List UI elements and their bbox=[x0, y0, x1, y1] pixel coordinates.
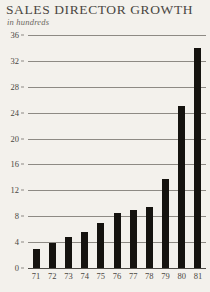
y-axis-tick-label: 32 bbox=[0, 56, 19, 66]
x-axis-tick-label: 81 bbox=[190, 271, 206, 281]
y-axis-tick-mark bbox=[21, 60, 24, 61]
y-axis-tick-mark bbox=[21, 242, 24, 243]
bar bbox=[33, 249, 40, 268]
x-axis-tick-label: 75 bbox=[93, 271, 109, 281]
y-axis-tick-label: 4 bbox=[0, 237, 19, 247]
x-axis-tick-label: 80 bbox=[174, 271, 190, 281]
x-axis-tick-label: 78 bbox=[141, 271, 157, 281]
y-axis-tick-mark bbox=[21, 164, 24, 165]
bar bbox=[81, 232, 88, 268]
chart-subtitle: in hundreds bbox=[7, 17, 49, 27]
bars-layer bbox=[28, 35, 206, 268]
y-axis-tick-mark bbox=[21, 190, 24, 191]
x-axis-tick-label: 73 bbox=[60, 271, 76, 281]
bar bbox=[114, 213, 121, 268]
y-axis-tick-mark bbox=[21, 216, 24, 217]
y-axis-tick-mark bbox=[21, 35, 24, 36]
y-axis-tick-mark bbox=[21, 86, 24, 87]
bar bbox=[178, 106, 185, 268]
bar bbox=[130, 210, 137, 268]
bar bbox=[162, 179, 169, 268]
y-axis-tick-label: 36 bbox=[0, 30, 19, 40]
bar-chart-figure: SALES DIRECTOR GROWTH in hundreds 048121… bbox=[0, 0, 210, 292]
gridline bbox=[28, 268, 206, 269]
bar bbox=[194, 48, 201, 268]
y-axis-tick-mark bbox=[21, 138, 24, 139]
chart-title: SALES DIRECTOR GROWTH bbox=[6, 2, 193, 18]
x-axis-tick-label: 72 bbox=[44, 271, 60, 281]
bar bbox=[49, 243, 56, 268]
y-axis-tick-mark bbox=[21, 268, 24, 269]
y-axis-tick-label: 28 bbox=[0, 82, 19, 92]
y-axis-tick-label: 16 bbox=[0, 159, 19, 169]
y-axis-tick-label: 24 bbox=[0, 108, 19, 118]
y-axis-tick-label: 8 bbox=[0, 211, 19, 221]
y-axis-tick-label: 12 bbox=[0, 185, 19, 195]
x-axis: 7172737475767778798081 bbox=[28, 271, 206, 285]
x-axis-tick-label: 76 bbox=[109, 271, 125, 281]
y-axis-tick-mark bbox=[21, 112, 24, 113]
x-axis-tick-label: 77 bbox=[125, 271, 141, 281]
bar bbox=[97, 223, 104, 268]
x-axis-tick-label: 74 bbox=[77, 271, 93, 281]
bar bbox=[146, 207, 153, 268]
x-axis-tick-label: 79 bbox=[158, 271, 174, 281]
y-axis: 04812162024283236 bbox=[0, 35, 25, 268]
bar bbox=[65, 237, 72, 268]
y-axis-tick-label: 20 bbox=[0, 134, 19, 144]
y-axis-tick-label: 0 bbox=[0, 263, 19, 273]
x-axis-tick-label: 71 bbox=[28, 271, 44, 281]
